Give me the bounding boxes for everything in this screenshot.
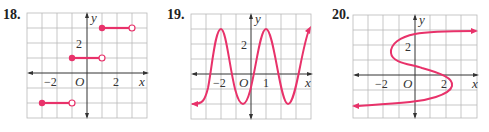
tick-label-x-neg: −2	[213, 76, 226, 90]
tick-label-y-pos: 2	[405, 40, 411, 54]
tick-label-x-pos: 1	[263, 76, 269, 90]
tick-label-x-neg: −2	[44, 75, 57, 89]
tick-label-y-pos: 2	[241, 38, 247, 52]
problem-18: 18. y x O −2 2 2	[0, 0, 165, 132]
x-axis-label: x	[138, 74, 145, 89]
wave-graph: y x O −2 1 2	[165, 0, 330, 132]
y-axis-label: y	[89, 10, 97, 25]
tick-label-x-neg: −2	[375, 77, 388, 91]
y-axis-label: y	[417, 12, 425, 27]
x-axis-label: x	[471, 76, 478, 91]
arrow-left-icon	[191, 101, 198, 107]
tick-label-y-pos: 2	[76, 37, 82, 51]
step-function-graph: y x O −2 2 2	[0, 0, 165, 132]
origin-label: O	[239, 75, 249, 90]
tick-label-x-pos: 2	[113, 75, 119, 89]
s-curve-graph: y x O −2 2 2	[330, 0, 489, 132]
origin-label: O	[403, 76, 413, 91]
problem-20: 20. y x O −2 2 2	[330, 0, 489, 132]
arrow-right-icon	[305, 26, 311, 34]
tick-label-x-pos: 2	[441, 77, 447, 91]
y-axis-label: y	[253, 11, 261, 26]
x-axis-label: x	[304, 75, 311, 90]
problem-19: 19. y x O −2 1 2	[165, 0, 330, 132]
origin-label: O	[75, 74, 85, 89]
